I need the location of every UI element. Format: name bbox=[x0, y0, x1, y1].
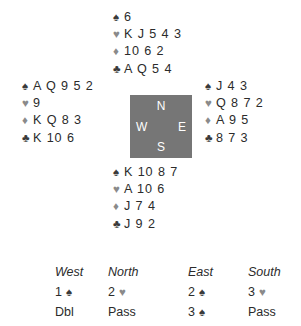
diamond-icon: ♦ bbox=[22, 112, 33, 129]
auction-header-south: South bbox=[248, 262, 281, 282]
auction-header-row: West North East South bbox=[0, 262, 301, 282]
compass-box: N W E S bbox=[130, 95, 192, 158]
hand-east-clubs-row: ♣ 8 7 3 bbox=[205, 130, 264, 147]
auction-bid-east-1: 2 ♠ bbox=[188, 282, 205, 302]
hand-east-clubs: 8 7 3 bbox=[216, 130, 249, 147]
hand-north-hearts: K J 5 4 3 bbox=[124, 26, 182, 43]
hand-south-spades-row: ♠ K 10 8 7 bbox=[113, 164, 178, 181]
auction-bid-level: 3 bbox=[188, 302, 195, 322]
auction-bid-north-1: 2 ♥ bbox=[108, 282, 126, 302]
compass-west-label: W bbox=[136, 121, 147, 133]
hand-east-hearts-row: ♥ Q 8 7 2 bbox=[205, 95, 264, 112]
club-icon: ♣ bbox=[113, 61, 124, 78]
spade-icon: ♠ bbox=[205, 78, 216, 95]
hand-west: ♠ A Q 9 5 2 ♥ 9 ♦ K Q 8 3 ♣ K 10 6 bbox=[22, 78, 94, 147]
spade-icon: ♠ bbox=[113, 9, 124, 26]
hand-south-diamonds: J 7 4 bbox=[124, 198, 156, 215]
auction-bid-north-2: Pass bbox=[108, 302, 140, 322]
auction-bid-level: Pass bbox=[248, 302, 276, 322]
club-icon: ♣ bbox=[22, 130, 33, 147]
auction-bid-level: Dbl bbox=[55, 302, 74, 322]
auction-bid-level: Pass bbox=[108, 302, 136, 322]
club-icon: ♣ bbox=[113, 216, 124, 233]
hand-east: ♠ J 4 3 ♥ Q 8 7 2 ♦ A 9 5 ♣ 8 7 3 bbox=[205, 78, 264, 147]
hand-west-diamonds-row: ♦ K Q 8 3 bbox=[22, 112, 94, 129]
auction-bid-south-2: Pass bbox=[248, 302, 280, 322]
hand-north-spades-row: ♠ 6 bbox=[113, 9, 182, 26]
spade-icon: ♠ bbox=[22, 78, 33, 95]
hand-south-clubs-row: ♣ J 9 2 bbox=[113, 216, 178, 233]
hand-north: ♠ 6 ♥ K J 5 4 3 ♦ 10 6 2 ♣ A Q 5 4 bbox=[113, 9, 182, 78]
hand-south-spades: K 10 8 7 bbox=[124, 164, 178, 181]
hand-north-hearts-row: ♥ K J 5 4 3 bbox=[113, 26, 182, 43]
spade-icon: ♠ bbox=[66, 282, 72, 302]
compass-east-label: E bbox=[178, 121, 186, 133]
heart-icon: ♥ bbox=[205, 95, 216, 112]
hand-west-hearts: 9 bbox=[33, 95, 41, 112]
hand-south-hearts: A 10 6 bbox=[124, 181, 165, 198]
hand-north-diamonds: 10 6 2 bbox=[124, 43, 164, 60]
heart-icon: ♥ bbox=[113, 181, 124, 198]
hand-west-diamonds: K Q 8 3 bbox=[33, 112, 82, 129]
auction-header-east: East bbox=[188, 262, 213, 282]
auction-bid-level: 3 bbox=[248, 282, 255, 302]
hand-north-clubs: A Q 5 4 bbox=[124, 61, 172, 78]
heart-icon: ♥ bbox=[259, 282, 266, 302]
auction-header-north: North bbox=[108, 262, 139, 282]
spade-icon: ♠ bbox=[199, 302, 205, 322]
spade-icon: ♠ bbox=[199, 282, 205, 302]
auction-bid-east-2: 3 ♠ bbox=[188, 302, 205, 322]
hand-east-diamonds-row: ♦ A 9 5 bbox=[205, 112, 264, 129]
hand-south-clubs: J 9 2 bbox=[124, 216, 156, 233]
diamond-icon: ♦ bbox=[113, 43, 124, 60]
compass-north-label: N bbox=[157, 100, 166, 112]
auction-bid-level: 2 bbox=[108, 282, 115, 302]
auction-bid-level: 2 bbox=[188, 282, 195, 302]
hand-south-hearts-row: ♥ A 10 6 bbox=[113, 181, 178, 198]
hand-south: ♠ K 10 8 7 ♥ A 10 6 ♦ J 7 4 ♣ J 9 2 bbox=[113, 164, 178, 233]
spade-icon: ♠ bbox=[113, 164, 124, 181]
hand-east-spades-row: ♠ J 4 3 bbox=[205, 78, 264, 95]
hand-north-spades: 6 bbox=[124, 9, 132, 26]
club-icon: ♣ bbox=[205, 130, 216, 147]
hand-west-spades: A Q 9 5 2 bbox=[33, 78, 94, 95]
auction-bid-south-1: 3 ♥ bbox=[248, 282, 266, 302]
diamond-icon: ♦ bbox=[113, 198, 124, 215]
compass-south-label: S bbox=[157, 141, 165, 153]
auction-bid-west-2: Dbl bbox=[55, 302, 78, 322]
hand-west-hearts-row: ♥ 9 bbox=[22, 95, 94, 112]
hand-east-hearts: Q 8 7 2 bbox=[216, 95, 264, 112]
hand-west-spades-row: ♠ A Q 9 5 2 bbox=[22, 78, 94, 95]
hand-north-diamonds-row: ♦ 10 6 2 bbox=[113, 43, 182, 60]
auction-row: 1 ♠ 2 ♥ 2 ♠ 3 ♥ bbox=[0, 282, 301, 302]
hand-south-diamonds-row: ♦ J 7 4 bbox=[113, 198, 178, 215]
auction-bid-level: 1 bbox=[55, 282, 62, 302]
hand-east-spades: J 4 3 bbox=[216, 78, 248, 95]
hand-west-clubs-row: ♣ K 10 6 bbox=[22, 130, 94, 147]
hand-north-clubs-row: ♣ A Q 5 4 bbox=[113, 61, 182, 78]
auction-bid-west-1: 1 ♠ bbox=[55, 282, 72, 302]
auction-table: West North East South 1 ♠ 2 ♥ 2 ♠ 3 bbox=[0, 262, 301, 322]
heart-icon: ♥ bbox=[22, 95, 33, 112]
hand-east-diamonds: A 9 5 bbox=[216, 112, 249, 129]
heart-icon: ♥ bbox=[113, 26, 124, 43]
heart-icon: ♥ bbox=[119, 282, 126, 302]
auction-row: Dbl Pass 3 ♠ Pass bbox=[0, 302, 301, 322]
diamond-icon: ♦ bbox=[205, 112, 216, 129]
auction-header-west: West bbox=[55, 262, 83, 282]
hand-west-clubs: K 10 6 bbox=[33, 130, 75, 147]
